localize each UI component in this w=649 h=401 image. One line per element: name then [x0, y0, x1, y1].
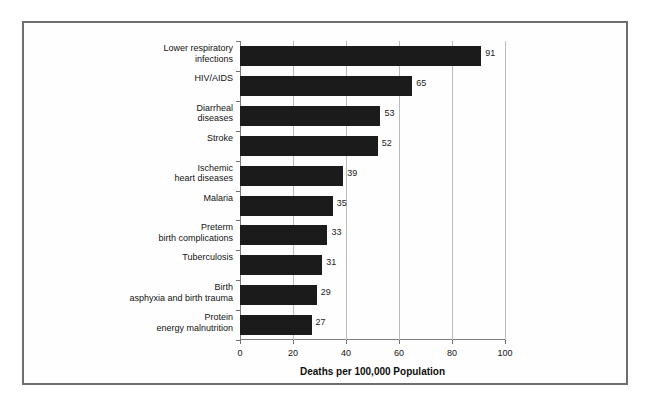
x-axis-tick: [240, 340, 241, 344]
x-axis-tick: [399, 340, 400, 344]
category-label: Protein energy malnutrition: [63, 312, 233, 333]
y-axis-tick: [236, 220, 240, 221]
y-axis-tick: [236, 250, 240, 251]
bar-value-label: 53: [384, 108, 394, 119]
bar-row: Malaria35: [240, 191, 505, 221]
bar[interactable]: [240, 136, 378, 156]
y-axis-tick: [236, 131, 240, 132]
bar[interactable]: [240, 315, 312, 335]
y-axis-tick: [236, 101, 240, 102]
bar-row: Tuberculosis31: [240, 250, 505, 280]
y-axis-tick: [236, 71, 240, 72]
x-axis-tick: [505, 340, 506, 344]
gridline: [505, 41, 506, 340]
category-label: HIV/AIDS: [63, 73, 233, 84]
bar[interactable]: [240, 106, 380, 126]
bar-row: Stroke52: [240, 131, 505, 161]
bar-row: Ischemic heart diseases39: [240, 161, 505, 191]
bar[interactable]: [240, 285, 317, 305]
y-axis-tick: [236, 191, 240, 192]
category-label: Lower respiratory infections: [63, 43, 233, 64]
bar[interactable]: [240, 46, 481, 66]
x-axis-tick-label: 60: [394, 348, 404, 358]
x-axis-tick-label: 80: [447, 348, 457, 358]
category-label: Preterm birth complications: [63, 222, 233, 243]
category-label: Tuberculosis: [63, 252, 233, 263]
category-label: Stroke: [63, 133, 233, 144]
bar[interactable]: [240, 76, 412, 96]
category-label: Diarrheal diseases: [63, 103, 233, 124]
x-axis-tick: [452, 340, 453, 344]
plot-area: Lower respiratory infections91HIV/AIDS65…: [240, 41, 505, 340]
bar-value-label: 39: [347, 168, 357, 179]
y-axis-tick: [236, 310, 240, 311]
bar-value-label: 33: [331, 227, 341, 238]
bar-value-label: 52: [382, 138, 392, 149]
x-axis-tick: [293, 340, 294, 344]
x-axis-title: Deaths per 100,000 Population: [240, 366, 505, 377]
category-label: Birth asphyxia and birth trauma: [63, 282, 233, 303]
x-axis-tick-label: 40: [341, 348, 351, 358]
y-axis-tick: [236, 161, 240, 162]
y-axis-tick: [236, 41, 240, 42]
bar-row: Birth asphyxia and birth trauma29: [240, 280, 505, 310]
bar-value-label: 65: [416, 78, 426, 89]
bar-value-label: 27: [316, 317, 326, 328]
x-axis-tick-label: 20: [288, 348, 298, 358]
x-axis-tick: [346, 340, 347, 344]
figure-frame: Lower respiratory infections91HIV/AIDS65…: [22, 21, 628, 385]
bar-row: Lower respiratory infections91: [240, 41, 505, 71]
bar[interactable]: [240, 255, 322, 275]
bar-row: Preterm birth complications33: [240, 220, 505, 250]
bar-chart: Lower respiratory infections91HIV/AIDS65…: [24, 23, 630, 387]
bar-value-label: 91: [485, 48, 495, 59]
bar-value-label: 31: [326, 257, 336, 268]
bar-row: HIV/AIDS65: [240, 71, 505, 101]
bar-row: Protein energy malnutrition27: [240, 310, 505, 340]
bar-value-label: 29: [321, 287, 331, 298]
bar[interactable]: [240, 225, 327, 245]
bar-value-label: 35: [337, 198, 347, 209]
y-axis-tick: [236, 280, 240, 281]
x-axis-tick-label: 0: [237, 348, 242, 358]
bar[interactable]: [240, 196, 333, 216]
category-label: Malaria: [63, 193, 233, 204]
bar-row: Diarrheal diseases53: [240, 101, 505, 131]
category-label: Ischemic heart diseases: [63, 163, 233, 184]
x-axis-tick-label: 100: [497, 348, 512, 358]
bar[interactable]: [240, 166, 343, 186]
